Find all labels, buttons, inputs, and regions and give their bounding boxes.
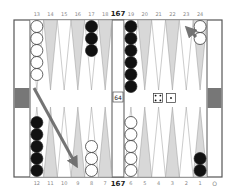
bottom-label-12: 12	[34, 180, 40, 186]
white-checker[interactable]	[31, 69, 43, 81]
white-checker[interactable]	[31, 57, 43, 69]
white-checker[interactable]	[31, 33, 43, 45]
black-checker[interactable]	[31, 165, 43, 177]
bottom-label-3: 3	[171, 180, 174, 186]
black-checker[interactable]	[125, 33, 137, 45]
die-pip	[155, 100, 157, 102]
bottom-label-8: 8	[90, 180, 93, 186]
top-label-15: 15	[61, 11, 67, 17]
die-pip	[160, 95, 162, 97]
backgammon-board: 1314151617181920212223241211109876543211…	[0, 0, 235, 195]
white-checker[interactable]	[86, 153, 98, 165]
top-label-18: 18	[102, 11, 108, 17]
black-checker[interactable]	[125, 57, 137, 69]
white-checker[interactable]	[31, 45, 43, 57]
bottom-label-9: 9	[76, 180, 79, 186]
black-checker[interactable]	[125, 69, 137, 81]
white-checker[interactable]	[31, 21, 43, 33]
cube-value: 64	[114, 94, 122, 101]
white-checker[interactable]	[86, 141, 98, 153]
die-pip	[155, 95, 157, 97]
white-checker[interactable]	[194, 21, 206, 33]
white-checker[interactable]	[125, 117, 137, 129]
black-checker[interactable]	[31, 141, 43, 153]
die-1	[167, 94, 176, 103]
top-label-24: 24	[197, 11, 203, 17]
top-label-21: 21	[155, 11, 161, 17]
white-checker[interactable]	[125, 141, 137, 153]
top-label-14: 14	[47, 11, 53, 17]
top-label-20: 20	[142, 11, 148, 17]
die-pip	[160, 100, 162, 102]
white-checker[interactable]	[86, 165, 98, 177]
black-checker[interactable]	[125, 21, 137, 33]
bottom-label-6: 6	[129, 180, 132, 186]
white-checker[interactable]	[125, 165, 137, 177]
black-checker[interactable]	[86, 45, 98, 57]
black-checker[interactable]	[31, 129, 43, 141]
white-checker[interactable]	[125, 129, 137, 141]
bottom-label-4: 4	[157, 180, 160, 186]
bottom-label-5: 5	[143, 180, 146, 186]
top-label-19: 19	[128, 11, 134, 17]
black-checker[interactable]	[86, 21, 98, 33]
die-pip	[170, 97, 172, 99]
die-face	[154, 94, 163, 103]
right-tray-block	[208, 88, 222, 108]
black-checker[interactable]	[125, 45, 137, 57]
top-label-23: 23	[183, 11, 189, 17]
top-label-17: 17	[88, 11, 94, 17]
black-checker[interactable]	[31, 117, 43, 129]
die-4	[154, 94, 163, 103]
black-checker[interactable]	[194, 165, 206, 177]
bottom-label-1: 1	[198, 180, 201, 186]
left-tray-block	[15, 88, 30, 108]
bottom-label-7: 7	[104, 180, 107, 186]
bottom-label-2: 2	[185, 180, 188, 186]
bottom-label-11: 11	[47, 180, 53, 186]
black-checker[interactable]	[31, 153, 43, 165]
white-checker[interactable]	[194, 33, 206, 45]
black-checker[interactable]	[86, 33, 98, 45]
pip-count-bottom: 167	[111, 180, 126, 188]
top-label-22: 22	[169, 11, 175, 17]
pip-count-top: 167	[111, 10, 126, 18]
white-checker[interactable]	[125, 153, 137, 165]
black-checker[interactable]	[125, 81, 137, 93]
bottom-label-10: 10	[61, 180, 67, 186]
top-label-13: 13	[34, 11, 40, 17]
top-label-16: 16	[75, 11, 81, 17]
black-checker[interactable]	[194, 153, 206, 165]
off-indicator: O	[212, 180, 217, 187]
